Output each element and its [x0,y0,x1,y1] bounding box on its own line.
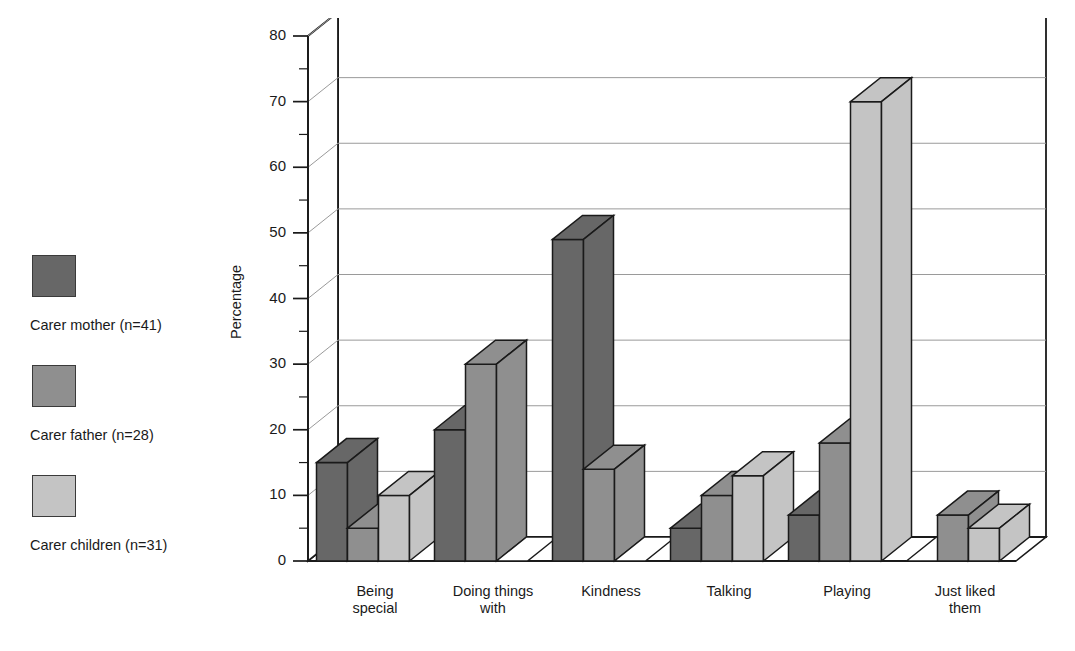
bar-side-face [882,78,912,561]
x-category-label: Playing [782,583,912,600]
bar-side-face [497,340,527,561]
x-category-label: Talking [664,583,794,600]
legend-label: Carer mother (n=41) [30,317,250,333]
y-tick-label: 10 [246,485,286,502]
y-axis-title: Percentage [228,264,244,338]
y-tick-label: 70 [246,92,286,109]
bar [851,78,912,561]
y-tick-label: 60 [246,157,286,174]
legend-label: Carer children (n=31) [30,537,250,553]
x-category-label: Doing things with [428,583,558,617]
x-category-label: Kindness [546,583,676,600]
plot-area: 01020304050607080PercentageBeing special… [250,18,1075,651]
y-tick-label: 20 [246,420,286,437]
bar [466,340,527,561]
x-category-label: Being special [310,583,440,617]
y-tick-label: 80 [246,26,286,43]
chart-figure: Carer mother (n=41)Carer father (n=28)Ca… [0,0,1075,651]
y-tick-label: 0 [246,551,286,568]
bar [733,452,794,561]
bar-chart-graphic [250,18,1075,651]
y-tick-label: 40 [246,289,286,306]
legend-swatch [32,475,76,517]
legend-label: Carer father (n=28) [30,427,250,443]
legend-swatch [32,365,76,407]
x-category-label: Just liked them [900,583,1030,617]
legend-swatch [32,255,76,297]
y-tick-label: 30 [246,354,286,371]
y-tick-label: 50 [246,223,286,240]
